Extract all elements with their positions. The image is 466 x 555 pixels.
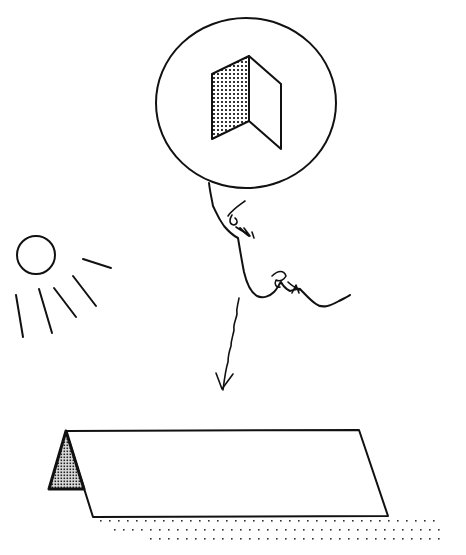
sun-ray <box>83 259 111 268</box>
face-profile <box>209 183 350 307</box>
arrow-down-icon <box>216 298 239 390</box>
folded-panel-icon <box>212 56 281 149</box>
tent-roof-panel <box>66 430 388 517</box>
sun-ray <box>73 276 96 306</box>
folded-panel-light-face <box>249 56 281 149</box>
sun-icon <box>16 236 111 337</box>
thought-bubble <box>156 18 336 188</box>
folded-panel-shaded-face <box>212 56 249 139</box>
sun-disc <box>17 236 55 274</box>
sun-ray <box>54 288 76 317</box>
illustration-canvas <box>0 0 466 555</box>
sun-ray <box>16 295 23 337</box>
ground-dots <box>100 520 440 540</box>
sun-ray <box>39 289 52 333</box>
tent <box>49 430 388 517</box>
